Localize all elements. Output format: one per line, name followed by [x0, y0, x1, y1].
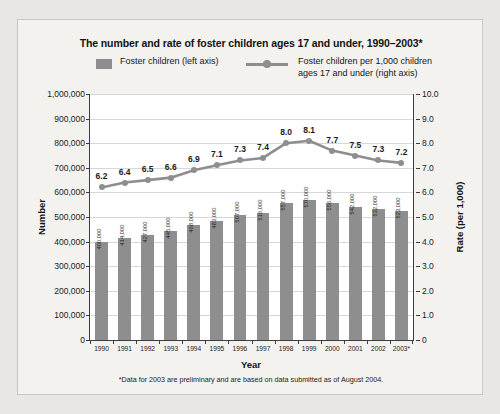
rate-data-point	[352, 153, 358, 159]
rate-value-label: 6.6	[165, 162, 177, 172]
y-axis-tick-right: 0	[422, 335, 427, 345]
x-axis-tick-label: 1996	[233, 345, 248, 352]
x-axis-tick-mark	[321, 340, 322, 344]
x-axis-tick-mark	[298, 340, 299, 344]
x-axis-tick-label: 1992	[140, 345, 155, 352]
rate-data-point	[191, 167, 197, 173]
y-axis-tick-left: 1,000,000	[47, 89, 85, 99]
y-axis-tick-left: 800,000	[54, 138, 85, 148]
x-axis-tick-label: 1999	[302, 345, 317, 352]
x-axis-tick-label: 2000	[325, 345, 340, 352]
rate-value-label: 6.9	[188, 154, 200, 164]
rate-value-label: 7.2	[396, 147, 408, 157]
x-axis-tick-mark	[390, 340, 391, 344]
legend-label-rate-line1: Foster children per 1,000 children	[298, 56, 432, 66]
y-axis-tick-right: 5.0	[422, 212, 434, 222]
y-axis-tick-left: 400,000	[54, 237, 85, 247]
x-axis-tick-mark	[159, 340, 160, 344]
x-axis-tick-label: 1993	[163, 345, 178, 352]
rate-data-point	[375, 157, 381, 163]
rate-data-point	[260, 155, 266, 161]
x-axis-tick-mark	[228, 340, 229, 344]
rate-value-label: 8.0	[280, 127, 292, 137]
rate-value-label: 6.4	[119, 167, 131, 177]
y-axis-title-right: Rate (per 1,000)	[454, 182, 465, 253]
legend-swatch-bars	[96, 59, 112, 69]
rate-value-label: 7.3	[372, 144, 384, 154]
rate-value-label: 6.2	[96, 171, 108, 181]
rate-line-series	[90, 94, 413, 340]
chart-title: The number and rate of foster children a…	[18, 37, 484, 49]
rate-data-point	[214, 162, 220, 168]
y-axis-tick-right: 4.0	[422, 237, 434, 247]
y-axis-tick-right: 3.0	[422, 261, 434, 271]
x-axis-tick-label: 2003*	[393, 345, 410, 352]
rate-value-label: 8.1	[303, 125, 315, 135]
rate-data-point	[329, 148, 335, 154]
y-axis-tick-right: 8.0	[422, 138, 434, 148]
y-axis-title-left: Number	[36, 199, 47, 235]
y-axis-tick-right: 1.0	[422, 310, 434, 320]
rate-value-label: 6.5	[142, 164, 154, 174]
x-axis-tick-label: 1997	[256, 345, 271, 352]
y-axis-tick-right: 9.0	[422, 114, 434, 124]
legend-label-rate: Foster children per 1,000 children ages …	[298, 56, 432, 79]
rate-data-point	[398, 160, 404, 166]
x-axis-tick-mark	[252, 340, 253, 344]
y-axis-tick-right: 2.0	[422, 286, 434, 296]
y-axis-tick-left: 200,000	[54, 286, 85, 296]
x-axis-tick-mark	[136, 340, 137, 344]
y-axis-tick-left: 500,000	[54, 212, 85, 222]
rate-value-label: 7.4	[257, 142, 269, 152]
rate-data-point	[237, 157, 243, 163]
y-axis-tick-right: 10.0	[422, 89, 439, 99]
x-axis-tick-mark	[90, 340, 91, 344]
y-axis-tick-right: 7.0	[422, 163, 434, 173]
chart-panel: The number and rate of foster children a…	[17, 19, 483, 395]
y-axis-tick-left: 900,000	[54, 114, 85, 124]
x-axis-tick-label: 1998	[279, 345, 294, 352]
rate-data-point	[283, 140, 289, 146]
rate-data-point	[168, 175, 174, 181]
x-axis-tick-label: 2001	[348, 345, 363, 352]
chart-footnote: *Data for 2003 are preliminary and are b…	[18, 375, 484, 384]
rate-value-label: 7.7	[326, 135, 338, 145]
rate-data-point	[122, 180, 128, 186]
chart-legend: Foster children (left axis) Foster child…	[78, 56, 478, 84]
legend-label-rate-line2: ages 17 and under (right axis)	[298, 68, 418, 78]
x-axis-tick-label: 2002	[371, 345, 386, 352]
x-axis-tick-label: 1990	[94, 345, 109, 352]
y-axis-tick-left: 600,000	[54, 187, 85, 197]
x-axis-title: Year	[18, 359, 484, 370]
rate-value-label: 7.1	[211, 149, 223, 159]
y-axis-tick-left: 300,000	[54, 261, 85, 271]
x-axis-tick-mark	[182, 340, 183, 344]
x-axis-tick-mark	[113, 340, 114, 344]
x-axis-tick-mark	[367, 340, 368, 344]
y-axis-tick-left: 100,000	[54, 310, 85, 320]
x-axis-tick-mark	[275, 340, 276, 344]
rate-data-point	[99, 184, 105, 190]
x-axis-tick-mark	[344, 340, 345, 344]
rate-data-point	[145, 177, 151, 183]
rate-value-label: 7.5	[349, 140, 361, 150]
legend-label-bars: Foster children (left axis)	[120, 56, 219, 66]
y-axis-tick-left: 700,000	[54, 163, 85, 173]
x-axis-tick-mark	[412, 340, 413, 344]
chart-page: The number and rate of foster children a…	[0, 0, 500, 414]
y-axis-tick-right: 6.0	[422, 187, 434, 197]
x-axis-tick-label: 1995	[210, 345, 225, 352]
x-axis-tick-mark	[205, 340, 206, 344]
rate-data-point	[306, 138, 312, 144]
plot-area: 1,000,000900,000800,000700,000600,000500…	[89, 94, 414, 341]
rate-value-label: 7.3	[234, 144, 246, 154]
x-axis-tick-label: 1994	[186, 345, 201, 352]
x-axis-tick-label: 1991	[117, 345, 132, 352]
legend-marker-rate	[263, 60, 271, 68]
y-axis-tick-left: 0	[80, 335, 85, 345]
